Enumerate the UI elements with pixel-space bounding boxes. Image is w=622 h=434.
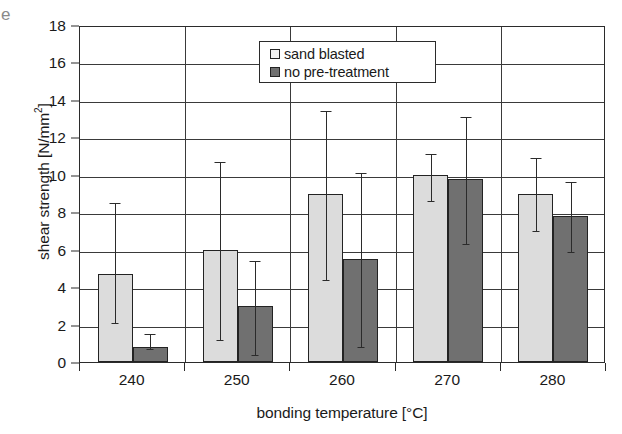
x-tick-label: 270: [434, 371, 460, 389]
x-tick-mark: [605, 363, 606, 371]
error-bar-line: [150, 334, 151, 349]
error-bar-line: [361, 173, 362, 347]
error-bar-cap-lower: [112, 323, 119, 324]
error-bar-line: [466, 117, 467, 244]
y-tick-label: 8: [57, 204, 66, 222]
y-axis-ticks: 024681012141618: [0, 0, 79, 434]
y-tick-label: 10: [49, 167, 66, 185]
x-tick-label: 260: [329, 371, 355, 389]
legend-item-sand-blasted: sand blasted: [270, 45, 435, 63]
y-tick-label: 4: [57, 279, 66, 297]
error-bar-cap-upper: [530, 158, 541, 159]
y-tick-mark: [71, 63, 79, 64]
error-bar-cap-lower: [147, 349, 154, 350]
error-bar-cap-upper: [565, 182, 576, 183]
legend-swatch-icon-no-pre-treatment: [270, 67, 280, 77]
y-tick-mark: [71, 325, 79, 326]
y-tick-label: 0: [57, 354, 66, 372]
error-bar-cap-lower: [357, 347, 364, 348]
legend-item-no-pre-treatment: no pre-treatment: [270, 63, 435, 81]
y-tick-label: 18: [49, 17, 66, 35]
error-bar-line: [115, 203, 116, 323]
error-bar-line: [536, 158, 537, 231]
bar-chart-figure: e shear strength [N/mm2] 024681012141618…: [0, 0, 622, 434]
plot-area: sand blasted no pre-treatment: [79, 26, 605, 363]
y-tick-label: 16: [49, 54, 66, 72]
y-tick-mark: [71, 288, 79, 289]
y-tick-label: 14: [49, 92, 66, 110]
error-bar-line: [255, 261, 256, 355]
gridline-horizontal: [80, 139, 604, 140]
gridline-horizontal: [80, 177, 604, 178]
error-bar-cap-upper: [250, 261, 261, 262]
error-bar-cap-lower: [462, 244, 469, 245]
y-tick-mark: [71, 175, 79, 176]
bar-270-sand-blasted: [413, 175, 448, 362]
chart-legend: sand blasted no pre-treatment: [259, 41, 436, 83]
error-bar-cap-lower: [217, 340, 224, 341]
legend-swatch-icon-sand-blasted: [270, 49, 280, 59]
error-bar-cap-upper: [355, 173, 366, 174]
error-bar-cap-lower: [567, 252, 574, 253]
x-tick-mark: [500, 363, 501, 371]
gridline-vertical: [185, 27, 186, 362]
x-tick-label: 250: [224, 371, 250, 389]
error-bar-cap-upper: [215, 162, 226, 163]
y-tick-mark: [71, 100, 79, 101]
x-tick-label: 280: [539, 371, 565, 389]
legend-label-no-pre-treatment: no pre-treatment: [284, 64, 389, 80]
y-tick-label: 12: [49, 129, 66, 147]
x-tick-mark: [395, 363, 396, 371]
error-bar-cap-upper: [460, 117, 471, 118]
error-bar-cap-upper: [320, 111, 331, 112]
error-bar-cap-lower: [427, 201, 434, 202]
y-tick-mark: [71, 250, 79, 251]
error-bar-cap-lower: [322, 280, 329, 281]
error-bar-cap-lower: [532, 231, 539, 232]
error-bar-cap-lower: [252, 355, 259, 356]
legend-label-sand-blasted: sand blasted: [284, 46, 364, 62]
error-bar-line: [431, 154, 432, 201]
x-tick-label: 240: [119, 371, 145, 389]
error-bar-line: [326, 111, 327, 280]
y-tick-label: 6: [57, 242, 66, 260]
x-axis-title: bonding temperature [°C]: [79, 404, 605, 422]
y-tick-mark: [71, 26, 79, 27]
error-bar-cap-upper: [425, 154, 436, 155]
error-bar-cap-upper: [110, 203, 121, 204]
y-tick-mark: [71, 363, 79, 364]
x-tick-mark: [79, 363, 80, 371]
y-tick-label: 2: [57, 317, 66, 335]
error-bar-line: [220, 162, 221, 340]
y-tick-mark: [71, 138, 79, 139]
gridline-vertical: [501, 27, 502, 362]
x-tick-mark: [289, 363, 290, 371]
x-tick-mark: [184, 363, 185, 371]
gridline-horizontal: [80, 102, 604, 103]
error-bar-cap-upper: [145, 334, 156, 335]
error-bar-line: [571, 182, 572, 251]
y-tick-mark: [71, 213, 79, 214]
